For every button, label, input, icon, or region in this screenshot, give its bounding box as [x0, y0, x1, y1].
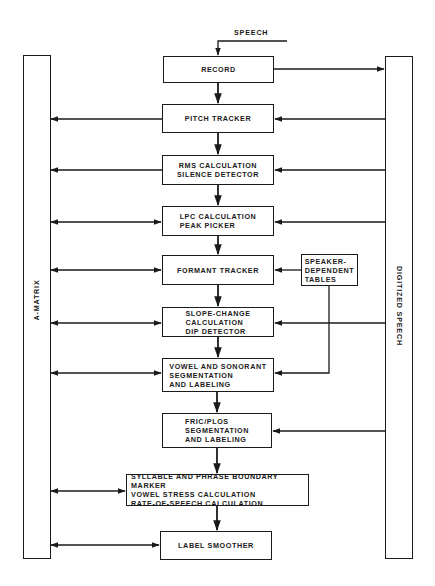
- vowel-sonorant-box: VOWEL AND SONORANT SEGMENTATION AND LABE…: [162, 358, 274, 392]
- box-line: DEPENDENT: [305, 266, 355, 275]
- box-line: TABLES: [305, 275, 355, 284]
- box-line: PEAK PICKER: [180, 221, 257, 230]
- box-line: SILENCE DETECTOR: [177, 170, 259, 179]
- label-smoother-box: LABEL SMOOTHER: [160, 531, 272, 560]
- box-line: SLOPE-CHANGE: [185, 309, 250, 318]
- speech-input-label: SPEECH: [234, 28, 268, 37]
- fric-plos-box: FRIC/PLOS SEGMENTATION AND LABELING: [162, 413, 272, 448]
- rms-calculation-box: RMS CALCULATION SILENCE DETECTOR: [162, 155, 274, 185]
- box-line: VOWEL STRESS CALCULATION: [131, 490, 308, 499]
- box-line: FORMANT TRACKER: [177, 266, 259, 275]
- box-line: DIP DETECTOR: [185, 327, 250, 336]
- digitized-speech-label: DIGITIZED SPEECH: [395, 266, 404, 346]
- a-matrix-label: A-MATRIX: [32, 280, 41, 321]
- box-line: AND LABELING: [169, 380, 266, 389]
- box-line: AND LABELING: [185, 435, 249, 444]
- box-line: FRIC/PLOS: [185, 417, 249, 426]
- box-line: SEGMENTATION: [185, 426, 249, 435]
- box-line: LPC CALCULATION: [180, 212, 257, 221]
- slope-change-box: SLOPE-CHANGE CALCULATION DIP DETECTOR: [162, 307, 274, 337]
- box-line: VOWEL AND SONORANT: [169, 362, 266, 371]
- box-line: RATE-OF-SPEECH CALCULATION: [131, 499, 308, 508]
- box-line: SYLLABLE AND PHRASE BOUNDARY MARKER: [131, 472, 308, 490]
- lpc-calculation-box: LPC CALCULATION PEAK PICKER: [162, 206, 274, 236]
- box-line: LABEL SMOOTHER: [178, 541, 254, 550]
- record-box: RECORD: [163, 56, 274, 83]
- box-line: PITCH TRACKER: [185, 114, 252, 123]
- box-line: RMS CALCULATION: [179, 161, 257, 170]
- box-line: CALCULATION: [185, 318, 250, 327]
- syllable-phrase-box: SYLLABLE AND PHRASE BOUNDARY MARKER VOWE…: [126, 474, 309, 506]
- formant-tracker-box: FORMANT TRACKER: [162, 255, 274, 285]
- pitch-tracker-box: PITCH TRACKER: [162, 104, 274, 133]
- box-line: SEGMENTATION: [169, 371, 266, 380]
- speaker-dependent-tables-box: SPEAKER- DEPENDENT TABLES: [301, 254, 358, 286]
- box-line: SPEAKER-: [305, 257, 355, 266]
- box-line: RECORD: [201, 65, 236, 74]
